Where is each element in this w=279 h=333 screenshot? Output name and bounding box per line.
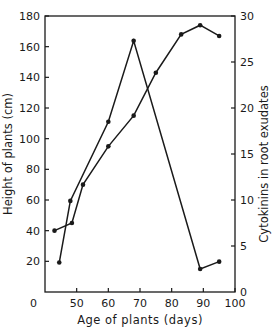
y-axis-title: Height of plants (cm) [1, 93, 15, 215]
y-tick-label: 180 [19, 10, 40, 23]
data-point [57, 260, 62, 265]
x-tick-label: 60 [101, 297, 115, 310]
y2-tick-label: 20 [240, 102, 254, 115]
y2-tick-label: 0 [240, 286, 247, 299]
plot-frame [45, 16, 235, 292]
data-point [81, 182, 86, 187]
y-tick-label: 160 [19, 41, 40, 54]
data-point [131, 39, 136, 44]
data-point [131, 113, 136, 118]
data-point [217, 34, 222, 39]
y-tick-label: 60 [26, 194, 40, 207]
data-point [198, 267, 203, 272]
x-tick-label: 90 [196, 297, 210, 310]
series-line-cytokinins [59, 41, 219, 269]
data-point [198, 23, 203, 28]
y2-axis-title: Cytokinins in root exudates [257, 85, 271, 242]
data-point [154, 70, 159, 75]
y2-tick-label: 15 [240, 148, 254, 161]
data-point [217, 259, 222, 264]
y2-tick-label: 25 [240, 56, 254, 69]
y-tick-label: 40 [26, 225, 40, 238]
data-point [106, 120, 111, 125]
y2-tick-label: 10 [240, 194, 254, 207]
data-point [52, 228, 57, 233]
origin-label: 0 [30, 297, 37, 310]
x-tick-label: 80 [165, 297, 179, 310]
series-line-height [55, 25, 220, 230]
y2-tick-label: 5 [240, 240, 247, 253]
y-tick-label: 120 [19, 102, 40, 115]
x-axis-title: Age of plants (days) [77, 313, 203, 327]
y-tick-label: 140 [19, 71, 40, 84]
data-point [106, 144, 111, 149]
y-tick-label: 20 [26, 255, 40, 268]
y-tick-label: 80 [26, 163, 40, 176]
chart-canvas: 5060708090100204060801001201401601800051… [0, 0, 279, 333]
data-point [70, 221, 75, 226]
y2-tick-label: 30 [240, 10, 254, 23]
chart: 5060708090100204060801001201401601800051… [0, 0, 279, 333]
data-point [68, 199, 73, 204]
data-point [179, 32, 184, 37]
y-tick-label: 100 [19, 133, 40, 146]
x-tick-label: 50 [70, 297, 84, 310]
x-tick-label: 70 [133, 297, 147, 310]
